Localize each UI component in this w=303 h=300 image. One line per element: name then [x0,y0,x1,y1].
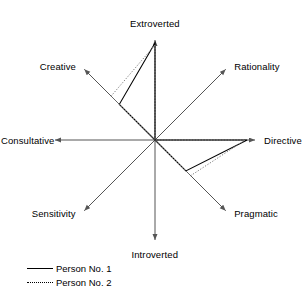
axis-line-rationality [155,69,226,140]
legend-item-label: Person No. 2 [53,277,111,288]
legend-line-solid-icon [27,263,53,274]
axis-label-creative: Creative [40,61,76,72]
axis-line-sensitivity [84,140,155,211]
radar-chart-figure: Extroverted Rationality Directive Pragma… [0,0,303,300]
legend-item: Person No. 2 [27,275,167,289]
series-polygons-group [111,43,247,176]
axis-label-consultative: Consultative [1,135,54,146]
legend-item-label: Person No. 1 [53,263,111,274]
legend-item: Person No. 1 [27,261,167,275]
legend-line-dotted-icon [27,277,53,288]
axis-label-sensitivity: Sensitivity [32,208,76,219]
axis-label-extroverted: Extroverted [130,18,180,29]
series-polygon-2 [111,45,245,176]
chart-legend: Person No. 1 Person No. 2 [27,261,167,289]
axis-label-pragmatic: Pragmatic [234,208,278,219]
axis-label-directive: Directive [264,135,302,146]
axis-label-rationality: Rationality [234,61,279,72]
axis-label-introverted: Introverted [132,249,179,260]
